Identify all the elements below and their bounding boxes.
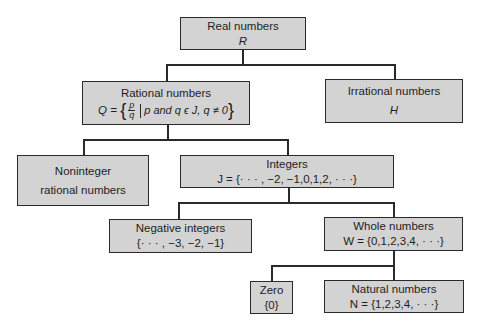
fraction: pq <box>128 101 135 120</box>
node-definition: Q = {pqp and q ϵ J, q ≠ 0} <box>98 101 234 120</box>
definition-prefix: Q = <box>98 104 117 116</box>
right-brace: } <box>228 100 234 120</box>
edge-to-rational <box>166 64 168 81</box>
edge-real-stem <box>242 49 244 65</box>
node-rational-numbers: Rational numbers Q = {pqp and q ϵ J, q ≠… <box>82 81 250 125</box>
edge-to-negative <box>178 202 180 219</box>
node-label: Zero <box>260 283 284 298</box>
node-label: Whole numbers <box>353 219 434 234</box>
node-label: Real numbers <box>207 19 279 34</box>
node-natural-numbers: Natural numbers N = {1,2,3,4, · · ·} <box>324 280 464 313</box>
node-label: Integers <box>266 157 308 172</box>
edge-integers-stem <box>288 187 290 203</box>
edge-rational-stem <box>167 124 169 140</box>
node-definition: J = {· · · , −2, −1,0,1,2, · · ·} <box>217 172 357 187</box>
node-label: Negative integers <box>136 221 226 236</box>
node-negative-integers: Negative integers {· · · , −3, −2, −1} <box>109 219 252 253</box>
edge-to-noninteger <box>83 139 85 155</box>
node-definition: {0} <box>264 298 278 313</box>
node-symbol: H <box>390 103 398 118</box>
node-label: Rational numbers <box>121 86 211 101</box>
edge-to-whole <box>393 202 395 217</box>
node-definition: N = {1,2,3,4, · · ·} <box>350 297 439 312</box>
such-that-bar <box>140 104 141 118</box>
node-definition: W = {0,1,2,3,4, · · ·} <box>343 234 444 249</box>
node-whole-numbers: Whole numbers W = {0,1,2,3,4, · · ·} <box>324 217 463 251</box>
edge-to-irrational <box>394 64 396 80</box>
edge-whole-bar <box>271 265 394 267</box>
node-definition: {· · · , −3, −2, −1} <box>137 236 224 251</box>
edge-rational-bar <box>83 139 288 141</box>
node-integers: Integers J = {· · · , −2, −1,0,1,2, · · … <box>180 155 394 188</box>
edge-integers-bar <box>178 202 394 204</box>
node-label-line2: rational numbers <box>40 183 126 198</box>
node-label: Natural numbers <box>351 282 436 297</box>
condition: p and q ϵ J, q ≠ 0 <box>144 104 228 116</box>
node-real-numbers: Real numbers R <box>180 17 306 50</box>
node-zero: Zero {0} <box>250 281 293 314</box>
node-label: Irrational numbers <box>348 84 441 99</box>
node-noninteger-rational: Noninteger rational numbers <box>17 155 149 206</box>
node-label-line1: Noninteger <box>55 164 111 179</box>
edge-to-integers <box>287 139 289 155</box>
left-brace: { <box>120 100 126 120</box>
edge-to-zero <box>271 265 273 281</box>
edge-real-bar <box>166 64 396 66</box>
node-symbol: R <box>239 34 247 49</box>
node-irrational-numbers: Irrational numbers H <box>325 79 463 123</box>
